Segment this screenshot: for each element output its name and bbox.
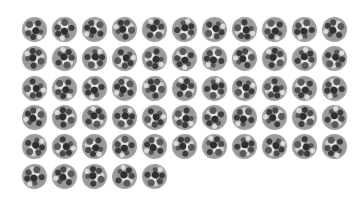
textured-gray-sphere-icon[interactable] (22, 134, 48, 160)
textured-gray-sphere-icon[interactable] (18, 101, 50, 133)
textured-gray-sphere-icon[interactable] (287, 41, 322, 76)
textured-gray-sphere-icon[interactable] (18, 42, 51, 75)
textured-gray-sphere-icon[interactable] (289, 72, 320, 103)
textured-gray-sphere-icon[interactable] (108, 159, 141, 192)
textured-gray-sphere-icon[interactable] (139, 43, 170, 74)
textured-gray-sphere-icon[interactable] (47, 12, 82, 47)
textured-gray-sphere-icon[interactable] (48, 160, 81, 193)
textured-gray-sphere-icon[interactable] (200, 15, 230, 45)
textured-gray-sphere-icon[interactable] (197, 71, 232, 106)
textured-gray-sphere-icon[interactable] (48, 101, 81, 134)
textured-gray-sphere-icon[interactable] (318, 71, 351, 104)
textured-gray-sphere-icon[interactable] (111, 75, 138, 102)
textured-gray-sphere-icon[interactable] (169, 102, 199, 132)
textured-gray-sphere-icon[interactable] (139, 160, 170, 191)
textured-gray-sphere-icon[interactable] (257, 100, 292, 135)
textured-gray-sphere-icon[interactable] (108, 42, 142, 76)
textured-gray-sphere-icon[interactable] (318, 13, 350, 45)
textured-gray-sphere-icon[interactable] (167, 42, 201, 76)
textured-gray-sphere-icon[interactable] (22, 17, 47, 42)
textured-gray-sphere-icon[interactable] (288, 130, 322, 164)
textured-gray-sphere-icon[interactable] (259, 14, 290, 45)
textured-gray-sphere-icon[interactable] (257, 71, 291, 105)
textured-gray-sphere-icon[interactable] (288, 13, 322, 47)
textured-gray-sphere-icon[interactable] (167, 129, 202, 164)
textured-gray-sphere-icon[interactable] (167, 12, 202, 47)
textured-gray-sphere-icon[interactable] (227, 12, 261, 46)
textured-gray-sphere-icon[interactable] (18, 159, 51, 192)
textured-gray-sphere-icon[interactable] (230, 73, 260, 103)
textured-gray-sphere-icon[interactable] (319, 131, 351, 163)
textured-gray-sphere-icon[interactable] (77, 70, 112, 105)
textured-gray-sphere-icon[interactable] (82, 134, 108, 160)
textured-gray-sphere-icon[interactable] (230, 103, 259, 132)
textured-gray-sphere-icon[interactable] (170, 74, 199, 103)
textured-gray-sphere-icon[interactable] (52, 75, 77, 100)
textured-gray-sphere-icon[interactable] (227, 129, 262, 164)
textured-gray-sphere-icon[interactable] (81, 16, 108, 43)
textured-gray-sphere-icon[interactable] (200, 44, 229, 73)
textured-gray-sphere-icon[interactable] (261, 45, 289, 73)
textured-gray-sphere-icon[interactable] (138, 100, 172, 134)
textured-gray-sphere-icon[interactable] (317, 100, 352, 135)
textured-gray-sphere-icon[interactable] (291, 104, 318, 131)
textured-gray-sphere-icon[interactable] (227, 41, 262, 76)
textured-gray-sphere-icon[interactable] (321, 46, 347, 72)
textured-gray-sphere-icon[interactable] (48, 42, 81, 75)
textured-gray-sphere-icon[interactable] (197, 100, 232, 135)
textured-gray-sphere-icon[interactable] (107, 12, 142, 47)
textured-gray-sphere-icon[interactable] (141, 133, 168, 160)
textured-gray-sphere-icon[interactable] (79, 43, 111, 75)
textured-gray-sphere-icon[interactable] (17, 70, 52, 105)
textured-gray-sphere-icon[interactable] (78, 101, 111, 134)
textured-gray-sphere-icon[interactable] (137, 71, 172, 106)
textured-gray-sphere-icon[interactable] (107, 129, 142, 164)
textured-gray-sphere-icon[interactable] (78, 160, 110, 192)
textured-gray-sphere-icon[interactable] (140, 15, 168, 43)
textured-gray-sphere-icon[interactable] (200, 132, 229, 161)
textured-gray-sphere-icon[interactable] (109, 102, 141, 134)
textured-gray-sphere-icon[interactable] (259, 132, 289, 162)
textured-gray-sphere-icon[interactable] (47, 129, 82, 164)
